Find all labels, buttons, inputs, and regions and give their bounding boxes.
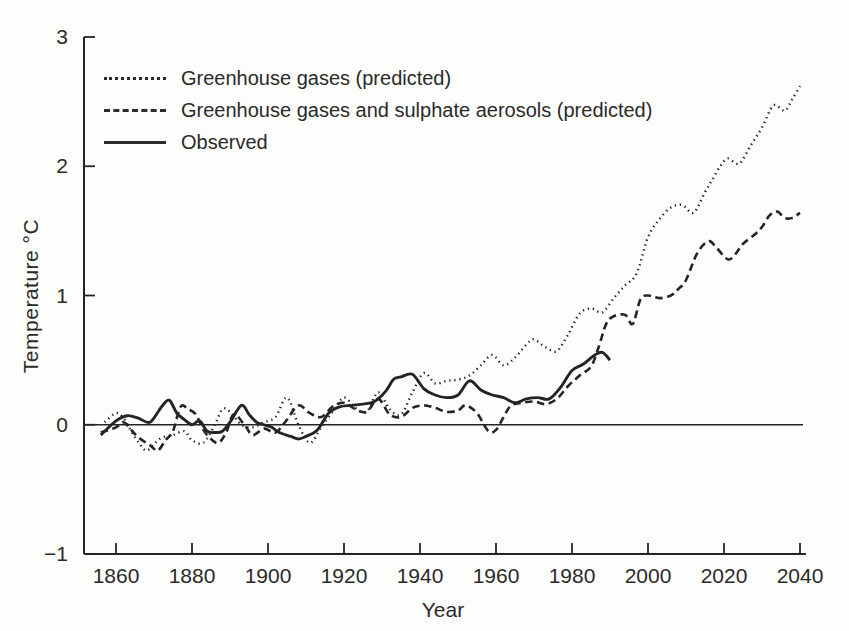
x-tick-label: 2020 xyxy=(701,564,748,587)
x-tick-label: 1860 xyxy=(93,564,140,587)
legend-label: Greenhouse gases and sulphate aerosols (… xyxy=(181,99,652,122)
y-tick-label: −1 xyxy=(44,542,68,565)
x-tick-label: 1940 xyxy=(397,564,444,587)
series-path-solid xyxy=(101,352,610,439)
x-tick-label: 1920 xyxy=(321,564,368,587)
y-tick-label: 0 xyxy=(56,413,68,436)
x-tick-label: 1980 xyxy=(549,564,596,587)
y-axis-label: Temperature °C xyxy=(19,219,43,373)
legend-label: Observed xyxy=(181,131,268,154)
y-tick-label: 2 xyxy=(56,154,68,177)
legend-line-sample-solid xyxy=(104,141,166,144)
x-tick-label: 1900 xyxy=(245,564,292,587)
x-tick-label: 2000 xyxy=(625,564,672,587)
legend-label: Greenhouse gases (predicted) xyxy=(181,67,451,90)
x-axis-label: Year xyxy=(422,598,464,622)
legend-line-sample-dashed xyxy=(104,109,166,112)
y-tick-label: 1 xyxy=(56,284,68,307)
x-tick-label: 2040 xyxy=(777,564,824,587)
x-tick-label: 1960 xyxy=(473,564,520,587)
legend-row-solid: Observed xyxy=(104,126,652,158)
legend-line-sample-dotted xyxy=(104,77,166,80)
series-path-dashed xyxy=(101,211,800,450)
y-tick-label: 3 xyxy=(56,25,68,48)
temperature-projection-figure: 3210−11860188019001920194019601980200020… xyxy=(0,0,849,631)
x-tick-label: 1880 xyxy=(169,564,216,587)
chart-legend: Greenhouse gases (predicted)Greenhouse g… xyxy=(104,62,652,158)
legend-row-dotted: Greenhouse gases (predicted) xyxy=(104,62,652,94)
legend-row-dashed: Greenhouse gases and sulphate aerosols (… xyxy=(104,94,652,126)
